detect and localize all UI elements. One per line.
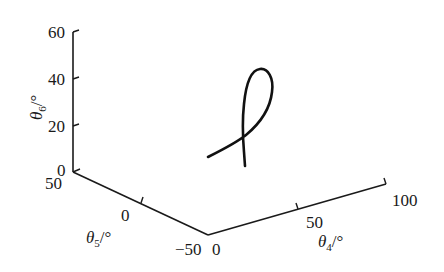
- theta4-tick-label-50: 50: [306, 213, 323, 232]
- 3d-trajectory-chart: 60 40 20 0 θ6/° 50 0 −50 θ5/° 0 50 100 θ…: [0, 0, 444, 272]
- theta4-axis-line: [208, 184, 386, 235]
- theta6-axis: 60 40 20 0 θ6/°: [27, 23, 79, 180]
- theta5-tick-label-neg50: −50: [175, 240, 202, 259]
- theta6-tick-label-20: 20: [48, 117, 65, 136]
- svg-text:θ6/°: θ6/°: [27, 95, 48, 120]
- theta4-tick-50: [296, 203, 298, 209]
- theta6-tick-label-60: 60: [48, 23, 65, 42]
- theta6-axis-label: θ6/°: [27, 95, 48, 120]
- theta6-tick-20: [73, 124, 79, 126]
- theta6-tick-60: [73, 30, 79, 32]
- theta5-axis: 50 0 −50 θ5/°: [45, 169, 208, 259]
- theta6-tick-label-40: 40: [48, 70, 65, 89]
- theta4-axis-label: θ4/°: [318, 232, 343, 253]
- theta5-axis-label: θ5/°: [86, 228, 111, 249]
- theta4-tick-label-100: 100: [392, 191, 418, 210]
- theta5-tick-0: [141, 197, 143, 203]
- theta5-tick-label-0: 0: [121, 206, 130, 225]
- trajectory-curve: [208, 69, 272, 166]
- theta5-tick-label-50: 50: [45, 174, 62, 193]
- theta4-tick-label-0: 0: [212, 240, 221, 259]
- theta4-tick-100: [384, 178, 386, 184]
- theta4-axis: 0 50 100 θ4/°: [208, 178, 418, 259]
- theta6-tick-40: [73, 77, 79, 79]
- theta5-tick-50: [73, 169, 80, 172]
- theta5-axis-line: [73, 172, 208, 235]
